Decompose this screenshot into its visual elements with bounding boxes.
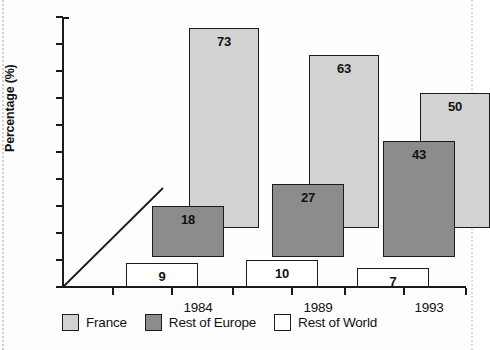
- bar-value-label: 63: [310, 61, 378, 76]
- x-tick-1: [171, 288, 173, 295]
- y-tick-50: [56, 151, 63, 153]
- bar-world-1989: 10: [246, 260, 318, 287]
- legend-swatch-france: [62, 314, 79, 331]
- y-axis-top-cap: [62, 17, 69, 19]
- bar-europe-1989: 27: [272, 184, 344, 257]
- x-tick-3: [291, 288, 293, 295]
- plot-area: 1009080706050403020100 198419891993 7363…: [62, 17, 466, 287]
- legend-label-france: France: [86, 315, 127, 330]
- bar-value-label: 18: [153, 212, 223, 227]
- bar-europe-1984: 18: [152, 206, 224, 257]
- bar-world-1993: 7: [357, 268, 429, 287]
- y-axis-label: Percentage (%): [3, 64, 17, 152]
- x-tick-6: [465, 288, 467, 295]
- y-tick-10: [56, 259, 63, 261]
- x-tick-2: [232, 288, 234, 295]
- legend-item-rest-of-europe: Rest of Europe: [145, 314, 256, 331]
- y-tick-90: [56, 43, 63, 45]
- legend-label-rest-of-europe: Rest of Europe: [169, 315, 256, 330]
- bar-europe-1993: 43: [383, 141, 455, 257]
- legend-swatch-rest-of-europe: [145, 314, 162, 331]
- scan-artifact-left: [2, 0, 4, 350]
- bar-value-label: 10: [247, 266, 317, 281]
- bar-value-label: 7: [358, 274, 428, 289]
- x-tick-0: [112, 288, 114, 295]
- bar-value-label: 27: [273, 190, 343, 205]
- bar-value-label: 43: [384, 147, 454, 162]
- bar-france-1984: 73: [189, 28, 259, 228]
- bar-world-1984: 9: [126, 263, 198, 287]
- bar-value-label: 50: [421, 99, 489, 114]
- y-tick-60: [56, 124, 63, 126]
- bar-value-label: 9: [127, 269, 197, 284]
- legend-swatch-rest-of-world: [274, 314, 291, 331]
- x-tick-label-1993: 1993: [389, 300, 469, 315]
- y-tick-70: [56, 97, 63, 99]
- y-tick-20: [56, 232, 63, 234]
- y-tick-30: [56, 205, 63, 207]
- y-tick-100: [56, 16, 63, 18]
- y-tick-0: [56, 286, 63, 288]
- legend-label-rest-of-world: Rest of World: [298, 315, 377, 330]
- y-tick-80: [56, 70, 63, 72]
- legend-item-france: France: [62, 314, 127, 331]
- y-tick-40: [56, 178, 63, 180]
- x-tick-4: [344, 288, 346, 295]
- bar-value-label: 73: [190, 34, 258, 49]
- chart-legend: France Rest of Europe Rest of World: [62, 311, 395, 333]
- legend-item-rest-of-world: Rest of World: [274, 314, 377, 331]
